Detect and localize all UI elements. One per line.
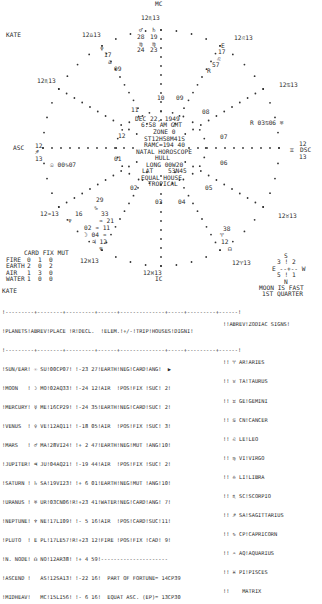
zodiac-row: !! ♊ GE!GEMINI	[223, 398, 290, 404]
neptune-min: 09	[114, 66, 121, 72]
table-header: !PLANETS!ABREV!PLACE !R!DECL. !ELEM.!+/-…	[2, 328, 241, 334]
sun-position: ☉ 00♑07	[50, 162, 76, 168]
table-row: !SATURN ! ♄ SA!19VI23! !+ 6 01!EARTH!NEG…	[2, 480, 241, 486]
house-04: 04	[178, 199, 185, 205]
ic-cusp: 12♓13	[143, 270, 162, 276]
ic-label: IC	[155, 276, 162, 282]
table-row: !MERCURY! ☿ ME!16CP29! !-24 35!EARTH!NEG…	[2, 404, 241, 410]
house-02: 02	[130, 185, 137, 191]
zodiac-row: !! ♍ VI!VIRGO	[223, 455, 290, 461]
zodiac-row: !! ♉ TA!TAURUS	[223, 378, 290, 384]
uranus-position: R 03♋06 ♅	[250, 120, 284, 126]
asc-cusp: 12♐13	[35, 143, 42, 162]
cusp-6: 12♉13	[278, 213, 297, 219]
house-09: 09	[176, 95, 183, 101]
venus-glyph: ♆	[99, 246, 103, 252]
zodiac-row: !! ♓ PI!PISCES	[223, 569, 290, 575]
zodiac-header: !!ABREV!ZODIAC SIGNS!	[223, 321, 290, 327]
venus-deg: 29	[96, 197, 103, 203]
cusp-3: 12♓13	[80, 258, 99, 264]
zodiac-type: TROPICAL	[148, 181, 178, 187]
dsc-cusp-deg: 12	[299, 141, 306, 147]
planet-table: !---------+--------+---------+------+---…	[2, 296, 241, 604]
table-row: !N. NODE! ☊ NO!12AR38! !+ 4 59!---------…	[2, 556, 241, 562]
table-row: !MIDHEAV! MC!15LI56! !- 6 16! EQUAT ASC.…	[2, 594, 241, 600]
cusp-12: 12♏13	[37, 78, 56, 84]
dsc-cusp-min: 13	[299, 154, 306, 160]
mc-cusp: 12♏13	[141, 15, 160, 21]
dsc-cusp-sign: ♊	[290, 147, 294, 153]
table-row: !JUPITER! ♃ JU!04AQ21! !-19 44!AIR !POS!…	[2, 461, 241, 467]
house-08: 08	[202, 109, 209, 115]
table-row: !MARS ! ♂ MA!28VI24! !+ 2 47!EARTH!NEG!M…	[2, 442, 241, 448]
zodiac-row: !! ♏ SC!SCORPIO	[223, 493, 290, 499]
mercury-glyph: ♆	[68, 218, 72, 224]
saturn-min: 23	[150, 47, 157, 53]
house-05: 05	[205, 185, 212, 191]
mars-min: 24	[137, 47, 144, 53]
table-separator: !---------+--------+---------+------+---…	[2, 309, 241, 315]
table-name: KATE	[2, 288, 17, 294]
pluto-retro: R	[207, 68, 211, 74]
zodiac-row: !! ♒ AQ!AQUARIUS	[223, 550, 290, 556]
house-01: 01	[114, 156, 121, 162]
house-11: 11	[131, 107, 138, 113]
cusp-5: 12♈13	[232, 260, 251, 266]
house-12: 12	[118, 133, 125, 139]
table-row: !SUN/EAR! ☉ SU!00CP07! !-23 27!EARTH!NEG…	[2, 366, 241, 372]
zodiac-row: !! ♐ SA!SAGITTARIUS	[223, 512, 290, 518]
cusp-8: 12♋13	[279, 82, 298, 88]
house-10: 10	[157, 95, 164, 101]
pluto-min: 57	[212, 62, 219, 68]
zodiac-table: !!ABREV!ZODIAC SIGNS! !! ♈ AR!ARIES !! ♉…	[223, 309, 290, 601]
mc-label: MC	[155, 1, 162, 7]
table-row: !PLUTO ! E PL!17LE57!R!+23 12!FIRE !POS!…	[2, 537, 241, 543]
cusp-9: 12♌13	[234, 35, 253, 41]
cusp-11: 12♎13	[82, 32, 101, 38]
table-separator: !---------+--------+---------+------+---…	[2, 347, 241, 353]
chart-name: KATE	[6, 32, 21, 38]
zodiac-row: !! ♌ LE!LEO	[223, 436, 290, 442]
house-06: 06	[220, 160, 227, 166]
table-row: !MOON ! ☽ MO!02AQ33! !-24 12!AIR !POS!FI…	[2, 385, 241, 391]
venus-sign: ♑	[94, 205, 98, 211]
table-row: !ASCEND ! AS!12SA13! !-22 16! PART OF FO…	[2, 575, 241, 581]
table-row: !VENUS ! ♀ VE!12AQ11! !-18 05!AIR !POS!F…	[2, 423, 241, 429]
zodiac-row: !! ♎ LI!LIBRA	[223, 474, 290, 480]
house-07: 07	[220, 134, 227, 140]
table-row: !URANUS ! ♅ UR!03CN06!R!+23 41!WATER!NEG…	[2, 499, 241, 505]
mercury-deg: 16	[75, 211, 82, 217]
cusp-2: 12♒13	[40, 211, 59, 217]
element-row-water: WATER100	[6, 276, 53, 282]
zodiac-row: !! MATRIX	[223, 588, 290, 594]
zodiac-row: !! ♑ CP!CAPRICORN	[223, 531, 290, 537]
table-row: !NEPTUNE! ♆ NE!17LI09! !- 5 16!AIR !POS!…	[2, 518, 241, 524]
zodiac-row: !! ♋ CN!CANCER	[223, 417, 290, 423]
asc-label: ASC	[13, 145, 24, 151]
node-deg: 38	[223, 226, 230, 232]
house-03: 03	[155, 199, 162, 205]
neptune-sign: ♎	[108, 59, 112, 65]
node-glyph: ☊	[228, 246, 232, 252]
moon-quarter: 1ST QUARTER	[262, 291, 303, 297]
zodiac-row: !! ♈ AR!ARIES	[223, 359, 290, 365]
